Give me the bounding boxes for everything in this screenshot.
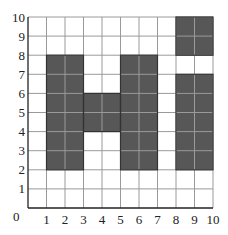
y-tick-label: 10 — [12, 10, 25, 25]
y-tick-label: 3 — [19, 143, 26, 158]
y-tick-label: 5 — [19, 105, 26, 120]
x-tick-label: 5 — [117, 212, 124, 227]
x-tick-label: 7 — [154, 212, 161, 227]
grid-chart: 12345678910 12345678910 0 — [0, 0, 228, 235]
x-tick-label: 3 — [80, 212, 87, 227]
x-tick-labels: 12345678910 — [43, 212, 219, 227]
y-tick-label: 7 — [19, 67, 26, 82]
y-tick-label: 4 — [19, 124, 26, 139]
x-tick-label: 2 — [62, 212, 69, 227]
y-tick-label: 1 — [19, 181, 26, 196]
y-tick-label: 8 — [19, 48, 26, 63]
origin-label: 0 — [13, 209, 20, 224]
x-tick-label: 1 — [43, 212, 50, 227]
x-tick-label: 8 — [173, 212, 180, 227]
y-tick-label: 6 — [19, 86, 26, 101]
x-tick-label: 6 — [136, 212, 143, 227]
y-tick-label: 2 — [19, 162, 26, 177]
y-tick-label: 9 — [19, 29, 26, 44]
y-tick-labels: 12345678910 — [12, 10, 26, 197]
x-tick-label: 4 — [99, 212, 106, 227]
x-tick-label: 9 — [191, 212, 198, 227]
x-tick-label: 10 — [207, 212, 220, 227]
